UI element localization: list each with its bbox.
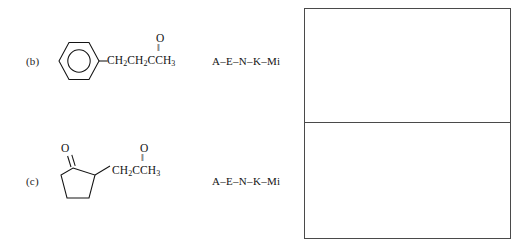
chain-seg-ch: CH: [107, 54, 123, 66]
structure-row-b: (b) O ‖ CH2CH2CCH3 A–E–N–K–Mi: [0, 0, 300, 122]
item-label-c: (c): [26, 175, 39, 187]
chain-seg-cch-c: CCH: [132, 164, 156, 176]
worksheet-page: (b) O ‖ CH2CH2CCH3 A–E–N–K–Mi (c): [0, 0, 532, 246]
answer-box-bottom[interactable]: [305, 123, 510, 240]
answer-box-group: [304, 8, 511, 239]
benzene-ring-icon: [58, 40, 108, 84]
chain-sub-3: 3: [171, 59, 175, 68]
double-bond-b: ‖: [157, 45, 160, 51]
ring-carbonyl-oxygen-c: O: [61, 142, 69, 154]
chain-formula-c: CH2CCH3: [112, 164, 160, 178]
double-bond-c: ‖: [141, 155, 144, 161]
answer-box-top[interactable]: [305, 9, 510, 123]
chain-seg-ch-b: CH: [127, 54, 143, 66]
benzene-ring: [58, 40, 108, 84]
chain-seg-ch-c: CH: [112, 164, 128, 176]
chain-formula-b: CH2CH2CCH3: [107, 54, 175, 68]
answer-code-c: A–E–N–K–Mi: [212, 175, 280, 187]
answer-code-b: A–E–N–K–Mi: [212, 55, 280, 67]
chain-seg-cch: CCH: [147, 54, 171, 66]
item-label-b: (b): [26, 55, 39, 67]
structure-row-c: (c) O O ‖ CH2CCH3 A–E–N–K–Mi: [0, 122, 300, 246]
chain-sub-3c: 3: [156, 169, 160, 178]
